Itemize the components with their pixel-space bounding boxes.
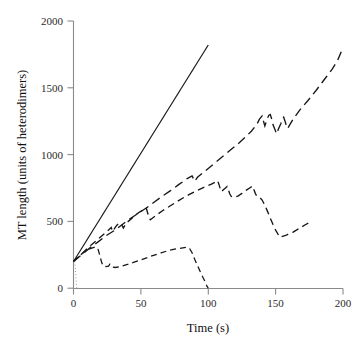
series-group: [74, 45, 344, 288]
y-axis-ticks: [68, 21, 74, 288]
line-chart-canvas: 2000 1500 1000 500 0 0 50 100 150 200 Ti…: [0, 0, 359, 344]
y-tick-label-0: 0: [58, 282, 64, 294]
x-tick-label-200: 200: [335, 297, 352, 309]
series-bounded-growth-lower-shortdash: [74, 247, 209, 288]
y-tick-label-1500: 1500: [41, 82, 64, 94]
x-tick-label-100: 100: [200, 297, 217, 309]
x-axis-tick-labels: 0 50 100 150 200: [71, 297, 352, 309]
chart-figure: 2000 1500 1000 500 0 0 50 100 150 200 Ti…: [0, 0, 359, 344]
y-axis-tick-labels: 2000 1500 1000 500 0: [41, 15, 64, 294]
series-initial-nucleation-dotted: [75, 261, 77, 288]
x-tick-label-0: 0: [71, 297, 77, 309]
x-tick-label-150: 150: [267, 297, 284, 309]
y-axis-title: MT length (units of heterodimers): [15, 70, 29, 241]
x-tick-label-50: 50: [135, 297, 147, 309]
y-tick-label-2000: 2000: [41, 15, 64, 27]
series-steady-growth-solid: [74, 45, 209, 261]
y-tick-label-1000: 1000: [41, 149, 64, 161]
axes-group: [74, 21, 344, 289]
x-axis-ticks: [74, 289, 344, 295]
y-tick-label-500: 500: [47, 215, 64, 227]
x-axis-title: Time (s): [187, 321, 229, 335]
series-dynamic-instability-middle-meddash: [74, 181, 310, 262]
